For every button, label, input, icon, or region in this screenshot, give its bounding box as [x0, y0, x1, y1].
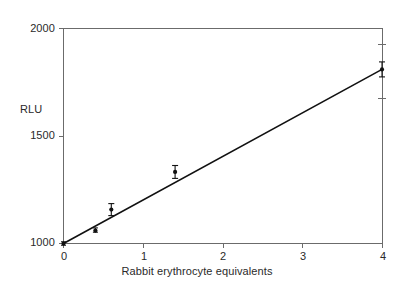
data-marker-4: [380, 67, 384, 71]
data-marker-0: [62, 242, 66, 246]
x-tick-label-2: 2: [212, 251, 234, 262]
y-axis-title: RLU: [20, 104, 42, 115]
data-point-group-4: [379, 62, 385, 77]
x-tick-label-3: 3: [292, 251, 314, 262]
data-marker-2: [109, 208, 113, 212]
x-axis-title: Rabbit erythrocyte equivalents: [0, 266, 394, 277]
x-tick-label-0: 0: [53, 251, 75, 262]
data-marker-3: [173, 170, 177, 174]
y-tick-label-1000: 1000: [19, 237, 55, 248]
x-axis-ticks: [64, 244, 383, 249]
y-axis-ticks: [59, 29, 64, 244]
x-tick-label-4: 4: [372, 251, 394, 262]
plot-canvas: [0, 0, 394, 284]
data-point-group-2: [108, 204, 114, 216]
y-tick-label-2000: 2000: [19, 23, 55, 34]
data-point-group-0: [61, 242, 66, 246]
data-marker-1: [93, 229, 97, 233]
regression-fit-line: [64, 69, 383, 243]
data-point-group-3: [172, 166, 178, 179]
x-tick-label-1: 1: [133, 251, 155, 262]
data-point-group-1: [93, 228, 98, 233]
y-tick-label-1500: 1500: [19, 130, 55, 141]
chart-figure: 2000 1500 1000 RLU 0 1 2 3 4 Rabbit eryt…: [0, 0, 394, 284]
